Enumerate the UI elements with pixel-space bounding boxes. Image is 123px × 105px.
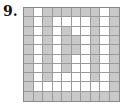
- grid-cell-shaded: [91, 17, 101, 26]
- grid-cell-shaded: [110, 36, 120, 45]
- grid-cell-shaded: [62, 27, 72, 36]
- grid-cell-shaded: [24, 64, 34, 73]
- grid-cell-shaded: [91, 92, 101, 101]
- grid-cell-shaded: [53, 92, 63, 101]
- grid-cell-shaded: [110, 55, 120, 64]
- grid-cell-empty: [53, 17, 63, 26]
- grid-cell-shaded: [100, 92, 110, 101]
- grid-cell-shaded: [24, 45, 34, 54]
- grid-cell-empty: [34, 36, 44, 45]
- grid-cell-empty: [43, 82, 53, 91]
- grid-cell-shaded: [81, 92, 91, 101]
- grid-cell-empty: [72, 64, 82, 73]
- grid-cell-empty: [81, 82, 91, 91]
- grid-cell-shaded: [53, 8, 63, 17]
- grid-cell-empty: [81, 64, 91, 73]
- grid-cell-shaded: [43, 36, 53, 45]
- grid-cell-shaded: [62, 8, 72, 17]
- grid-cell-empty: [81, 17, 91, 26]
- grid-cell-empty: [81, 73, 91, 82]
- grid-cell-shaded: [43, 45, 53, 54]
- grid-cell-shaded: [24, 73, 34, 82]
- grid-cell-empty: [53, 27, 63, 36]
- grid-cell-shaded: [43, 17, 53, 26]
- problem-number-label: 9.: [3, 4, 18, 18]
- grid-cell-shaded: [62, 64, 72, 73]
- grid-cell-shaded: [43, 92, 53, 101]
- grid-cell-shaded: [43, 55, 53, 64]
- grid-cell-shaded: [91, 45, 101, 54]
- grid-cell-empty: [100, 82, 110, 91]
- grid-cell-empty: [53, 36, 63, 45]
- grid-cell-shaded: [24, 92, 34, 101]
- grid-cell-empty: [72, 82, 82, 91]
- grid-cell-empty: [81, 27, 91, 36]
- grid-cell-shaded: [43, 27, 53, 36]
- grid-cell-shaded: [110, 17, 120, 26]
- grid-cell-shaded: [72, 92, 82, 101]
- grid-cell-shaded: [91, 27, 101, 36]
- grid-cell-empty: [72, 73, 82, 82]
- grid-cell-shaded: [43, 8, 53, 17]
- grid-cell-empty: [34, 64, 44, 73]
- grid-cell-empty: [91, 82, 101, 91]
- grid-cell-empty: [34, 8, 44, 17]
- grid-cell-shaded: [91, 36, 101, 45]
- grid-cell-empty: [100, 55, 110, 64]
- grid-cell-empty: [34, 73, 44, 82]
- grid-cell-shaded: [62, 92, 72, 101]
- grid-cell-shaded: [62, 36, 72, 45]
- grid-cell-empty: [81, 36, 91, 45]
- grid-cell-empty: [62, 82, 72, 91]
- grid-cell-shaded: [110, 92, 120, 101]
- grid-cell-empty: [100, 27, 110, 36]
- grid-cell-shaded: [91, 8, 101, 17]
- grid-cell-empty: [100, 64, 110, 73]
- grid-cell-empty: [34, 82, 44, 91]
- grid-cell-empty: [100, 17, 110, 26]
- grid-cell-empty: [53, 55, 63, 64]
- grid-cell-empty: [34, 45, 44, 54]
- grid-cell-empty: [72, 55, 82, 64]
- grid-cell-shaded: [110, 27, 120, 36]
- grid-cell-shaded: [34, 92, 44, 101]
- grid-cell-shaded: [62, 55, 72, 64]
- shaded-grid-diagram: [23, 7, 120, 102]
- grid-cell-empty: [34, 27, 44, 36]
- grid-cell-empty: [100, 45, 110, 54]
- grid-cell-empty: [72, 17, 82, 26]
- grid-cell-empty: [62, 17, 72, 26]
- grid-cell-shaded: [72, 8, 82, 17]
- grid-cell-shaded: [24, 55, 34, 64]
- grid-cell-empty: [53, 45, 63, 54]
- grid-cell-shaded: [24, 27, 34, 36]
- grid-cell-shaded: [24, 36, 34, 45]
- grid-cell-empty: [100, 36, 110, 45]
- grid-cell-shaded: [24, 17, 34, 26]
- grid-cell-shaded: [110, 8, 120, 17]
- grid-cell-empty: [100, 73, 110, 82]
- grid-cell-shaded: [24, 8, 34, 17]
- grid-cell-empty: [53, 64, 63, 73]
- grid-cell-shaded: [91, 73, 101, 82]
- grid-cell-shaded: [24, 82, 34, 91]
- grid-cell-empty: [100, 8, 110, 17]
- grid-cell-empty: [53, 82, 63, 91]
- grid-cell-empty: [81, 45, 91, 54]
- grid-cell-shaded: [81, 8, 91, 17]
- grid-cell-shaded: [110, 64, 120, 73]
- grid-cell-empty: [72, 27, 82, 36]
- grid-cell-shaded: [110, 45, 120, 54]
- grid-cell-empty: [34, 17, 44, 26]
- grid-cell-shaded: [91, 64, 101, 73]
- grid-cell-empty: [34, 55, 44, 64]
- grid-cell-shaded: [43, 64, 53, 73]
- grid-cell-shaded: [62, 45, 72, 54]
- grid-cell-shaded: [72, 45, 82, 54]
- grid-cell-shaded: [43, 73, 53, 82]
- grid-cell-shaded: [91, 55, 101, 64]
- grid-cell-shaded: [110, 73, 120, 82]
- grid-cell-shaded: [110, 82, 120, 91]
- grid-cell-shaded: [72, 36, 82, 45]
- grid-cell-empty: [62, 73, 72, 82]
